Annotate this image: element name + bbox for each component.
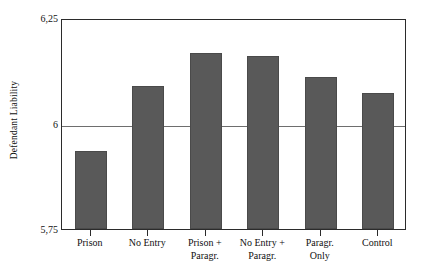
x-axis-label-6: Control (349, 236, 407, 249)
y-tick-label-625: 6,25 (41, 14, 59, 24)
x-axis-label-line1: No Entry (129, 237, 166, 248)
bar-5 (305, 77, 337, 229)
x-axis-label-line1: Prison (77, 237, 103, 248)
y-axis-title-text: Defendant Liability (9, 81, 19, 159)
x-axis-label-line1: No Entry + (240, 237, 285, 248)
x-axis-label-line2: Only (291, 249, 349, 262)
x-axis-label-line1: Prison + (188, 237, 222, 248)
x-axis-label-3: Prison +Paragr. (176, 236, 234, 262)
x-axis-label-line2: Paragr. (176, 249, 234, 262)
x-axis-label-1: Prison (61, 236, 119, 249)
bar-chart: Defendant Liability 6,25 6 5,75 PrisonNo… (0, 0, 424, 274)
plot-area (61, 19, 406, 230)
x-axis-label-2: No Entry (119, 236, 177, 249)
x-axis-label-line1: Control (362, 237, 393, 248)
bars-layer (62, 20, 405, 229)
x-axis-label-line1: Paragr. (306, 237, 334, 248)
y-tick-label-575: 5,75 (41, 225, 59, 235)
x-axis-label-5: Paragr.Only (291, 236, 349, 262)
bar-6 (362, 93, 394, 229)
bar-1 (75, 151, 107, 229)
x-axis-label-4: No Entry +Paragr. (234, 236, 292, 262)
bar-4 (247, 56, 279, 229)
bar-2 (132, 86, 164, 229)
bar-3 (190, 53, 222, 229)
x-axis-label-line2: Paragr. (234, 249, 292, 262)
y-tick-label-6: 6 (53, 120, 58, 130)
y-axis-tick-labels: 6,25 6 5,75 (26, 0, 58, 274)
y-axis-title: Defendant Liability (2, 0, 26, 240)
